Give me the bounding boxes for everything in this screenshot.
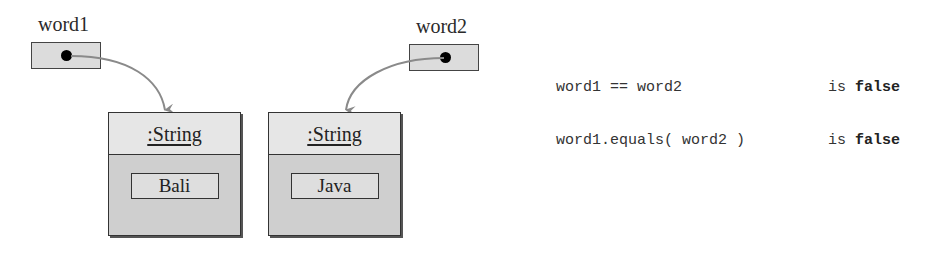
comparison-verb: is	[828, 79, 846, 96]
object-type-header: :String	[269, 113, 400, 155]
object-type-label: :String	[307, 123, 361, 145]
comparison-expression: word1.equals( word2 )	[556, 132, 745, 149]
arrow-word2-to-java	[346, 58, 444, 110]
comparison-expression: word1 == word2	[556, 79, 682, 96]
arrow-word1-to-bali	[71, 56, 165, 110]
object-value-box: Java	[291, 173, 379, 199]
object-type-label: :String	[147, 123, 201, 145]
comparison-row-equality: word1 == word2	[538, 62, 682, 96]
comparison-row-equals-method: word1.equals( word2 )	[538, 115, 745, 149]
comparison-result-equals-method: is false	[810, 115, 900, 149]
object-value-box: Bali	[131, 173, 219, 199]
comparison-result: false	[855, 79, 900, 96]
comparison-verb: is	[828, 132, 846, 149]
string-object-java: :String Java	[268, 112, 401, 236]
string-object-bali: :String Bali	[108, 112, 241, 236]
comparison-result-equality: is false	[810, 62, 900, 96]
object-type-header: :String	[109, 113, 240, 155]
comparison-result: false	[855, 132, 900, 149]
